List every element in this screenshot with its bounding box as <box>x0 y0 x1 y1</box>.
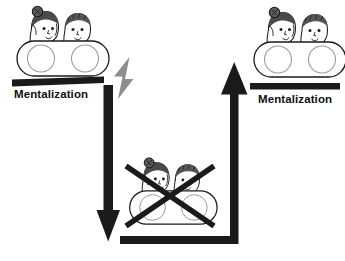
diagram-graphics <box>0 0 345 261</box>
dyad-figure-right <box>254 7 345 77</box>
lightning-bolt-icon <box>114 57 134 99</box>
dyad-figure-left <box>17 6 109 76</box>
mentalization-label-left: Mentalization <box>14 88 88 100</box>
node-broken-bottom <box>126 158 217 226</box>
diagram-canvas: Mentalization Mentalization <box>0 0 345 261</box>
mentalization-bar-left <box>12 77 104 87</box>
mentalization-label-right: Mentalization <box>258 93 332 105</box>
arrow-up-icon <box>221 62 248 95</box>
node-intact-left <box>12 6 109 86</box>
arrow-down-icon <box>97 85 121 242</box>
mentalization-bar-right <box>250 83 340 90</box>
node-intact-right <box>250 7 345 89</box>
